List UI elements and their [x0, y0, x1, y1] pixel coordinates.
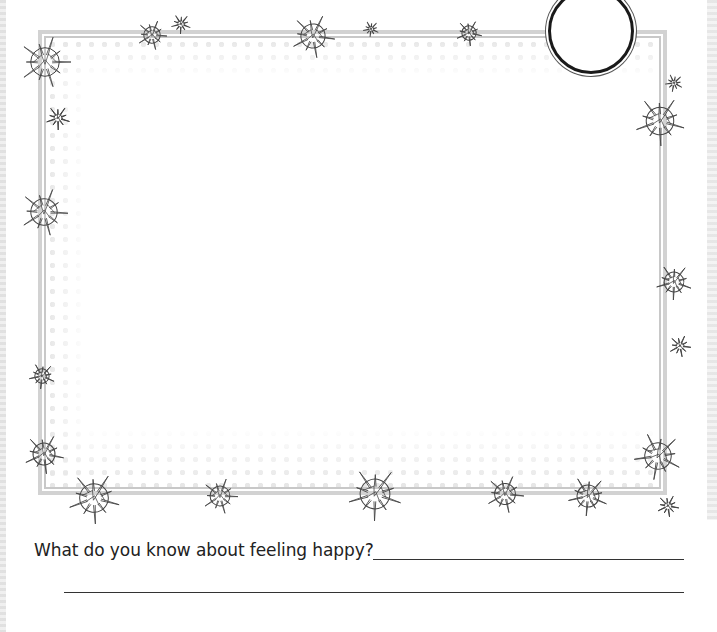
worksheet-page: What do you know about feeling happy? — [0, 0, 717, 632]
star-icon — [348, 467, 402, 521]
star-icon — [634, 432, 682, 480]
page-edge-right — [707, 0, 717, 520]
star-icon — [486, 475, 524, 513]
star-icon — [656, 264, 692, 300]
star-icon — [19, 36, 71, 88]
star-icon — [657, 495, 679, 517]
page-edge-left — [0, 0, 6, 632]
star-icon — [291, 14, 335, 58]
star-icon — [202, 478, 238, 514]
star-icon — [29, 363, 55, 389]
star-icon — [665, 74, 683, 92]
answer-line-1[interactable] — [373, 559, 684, 560]
star-icon — [46, 106, 70, 130]
star-icon — [568, 476, 608, 516]
star-icon — [669, 335, 691, 357]
question-prompt: What do you know about feeling happy? — [34, 540, 374, 560]
question-label: What do you know about feeling happy? — [34, 540, 374, 560]
drawing-area[interactable] — [44, 36, 661, 489]
star-icon — [635, 96, 685, 146]
star-icon — [20, 188, 68, 236]
star-icon — [68, 472, 120, 524]
star-icon — [456, 20, 482, 46]
star-icon — [24, 434, 64, 474]
answer-line-2[interactable] — [64, 592, 684, 593]
star-icon — [137, 20, 167, 50]
star-icon — [363, 21, 379, 37]
star-icon — [171, 14, 191, 34]
